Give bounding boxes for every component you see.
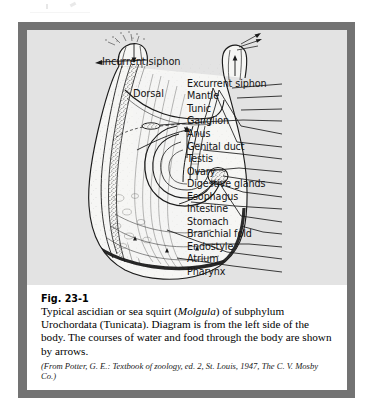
diagram-label-excurrent-siphon: Excurrent siphon xyxy=(187,79,266,89)
diagram-label-esophagus: Esophagus xyxy=(187,192,238,202)
diagram-label-pharynx: Pharynx xyxy=(187,267,225,277)
figure-frame-inner: Incurrent siphon Dorsal Anterior Excurre… xyxy=(27,30,347,390)
credit-line-1: (From Potter, G. E.: Textbook of zoology… xyxy=(41,361,238,371)
scientific-name: Molgula xyxy=(178,305,216,317)
figure-number: Fig. 23-1 xyxy=(41,293,335,304)
diagram-label-genital-duct: Genital duct xyxy=(187,142,244,152)
caption-line-1: Typical ascidian or sea squirt (Molgula)… xyxy=(41,305,284,317)
diagram-label-tunic: Tunic xyxy=(187,104,211,114)
figure-credit-text: (From Potter, G. E.: Textbook of zoology… xyxy=(41,361,335,382)
diagram-label-dorsal: Dorsal xyxy=(133,88,164,99)
diagram-label-stomach: Stomach xyxy=(187,217,229,227)
diagram-label-ovary: Ovary xyxy=(187,167,215,177)
diagram-label-incurrent-siphon: Incurrent siphon xyxy=(102,56,180,67)
figure-caption-block: Fig. 23-1 Typical ascidian or sea squirt… xyxy=(27,285,347,390)
diagram-label-atrium: Atrium xyxy=(187,254,219,264)
diagram-label-testis: Testis xyxy=(187,154,213,164)
diagram-label-intestine: Intestine xyxy=(187,204,228,214)
diagram-label-ganglion: Ganglion xyxy=(187,116,229,126)
scan-artifact xyxy=(46,4,48,9)
figure-caption-text: Typical ascidian or sea squirt (Molgula)… xyxy=(41,305,335,358)
figure-container: Incurrent siphon Dorsal Anterior Excurre… xyxy=(0,0,371,420)
figure-frame: Incurrent siphon Dorsal Anterior Excurre… xyxy=(18,22,355,398)
diagram-label-anus: Anus xyxy=(187,129,210,139)
diagram-label-branchial-fold: Branchial fold xyxy=(187,229,252,239)
diagram-panel: Incurrent siphon Dorsal Anterior Excurre… xyxy=(27,30,347,285)
diagram-label-endostyle: Endostyle xyxy=(187,242,233,252)
scan-artifact xyxy=(70,2,77,7)
diagram-label-mantle: Mantle xyxy=(187,91,219,101)
caption-line-2: Urochordata (Tunicata). Diagram is from … xyxy=(41,318,280,330)
scan-artifact xyxy=(30,12,90,13)
diagram-label-digestive-glands: Digestive glands xyxy=(187,179,265,189)
